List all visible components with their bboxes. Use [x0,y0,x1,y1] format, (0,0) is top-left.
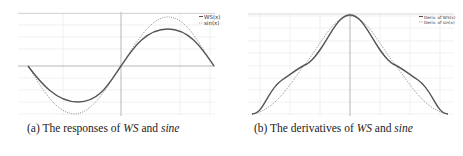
caption-b-text: The derivatives of [270,122,354,134]
chart-b-legend: Deriv. of WS(x) Deriv. of sin(x) [419,15,456,26]
chart-a-grid [18,13,215,115]
legend-a-sin: sin(x) [204,20,219,26]
caption-b-mid: and [375,122,392,134]
chart-a-axes [18,12,215,116]
caption-b-term1: WS [357,122,372,134]
legend-b-dsin: Deriv. of sin(x) [424,20,455,25]
caption-a-text: The responses of [42,122,120,134]
caption-a: (a) The responses of WS and sine [27,122,179,134]
legend-a-ws: WS(x) [204,14,220,20]
caption-a-term1: WS [123,122,138,134]
caption-a-term2: sine [161,122,180,134]
chart-a-plot: WS(x) sin(x) [0,0,232,120]
chart-b-panel: Deriv. of WS(x) Deriv. of sin(x) (b) The… [232,0,463,156]
caption-b: (b) The derivatives of WS and sine [254,122,413,134]
caption-b-label: (b) [254,122,267,134]
caption-a-label: (a) [27,122,40,134]
legend-b-dws: Deriv. of WS(x) [424,15,456,20]
caption-a-mid: and [141,122,158,134]
caption-b-term2: sine [394,122,413,134]
chart-a-legend: WS(x) sin(x) [199,14,220,27]
chart-a-panel: WS(x) sin(x) (a) The responses of WS and… [0,0,232,156]
chart-b-plot: Deriv. of WS(x) Deriv. of sin(x) [232,0,463,120]
